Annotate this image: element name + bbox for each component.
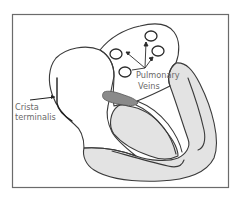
pulmonary-vein-1 [110,49,122,59]
label-pulmonary: Pulmonary [136,70,180,80]
label-crista: Crista [15,102,39,112]
pulmonary-vein-2 [145,31,157,41]
septum-dark [103,91,139,105]
heart-diagram: Pulmonary Veins Crista terminalis [0,0,240,198]
pulmonary-arrows [126,42,153,70]
label-terminalis: terminalis [15,112,56,122]
pulmonary-vein-3 [152,46,164,56]
pulmonary-vein-4 [119,67,131,77]
label-veins: Veins [138,81,160,91]
crista-terminalis-ridge [57,78,72,121]
